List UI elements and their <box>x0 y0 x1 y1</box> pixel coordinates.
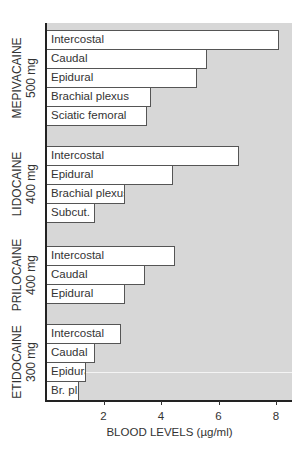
bar-prilocaine-caudal: Caudal <box>46 265 145 285</box>
x-tick <box>104 401 105 405</box>
bar-mepivacaine-intercostal: Intercostal <box>46 30 279 50</box>
bar-etidocaine-epidural: Epidural <box>46 362 86 382</box>
bar-mepivacaine-caudal: Caudal <box>46 49 207 69</box>
x-axis-title: BLOOD LEVELS (µg/ml) <box>47 426 292 438</box>
drug-name: MEPIVACAINE <box>10 37 24 118</box>
group-label-prilocaine: PRILOCAINE400 mg <box>10 238 38 311</box>
bar-lidocaine-intercostal: Intercostal <box>46 146 239 166</box>
bar-mepivacaine-sciatic-femoral: Sciatic femoral <box>46 106 147 126</box>
scan-artifact-line <box>86 372 292 373</box>
x-tick-label: 6 <box>209 410 229 422</box>
bar-lidocaine-subcut: Subcut. <box>46 203 95 223</box>
x-axis <box>45 400 292 402</box>
group-label-mepivacaine: MEPIVACAINE500 mg <box>10 37 38 118</box>
drug-dose: 500 mg <box>24 37 38 118</box>
bar-lidocaine-epidural: Epidural <box>46 165 173 185</box>
bar-lidocaine-brachial-plexus: Brachial plexus <box>46 184 125 204</box>
drug-name: PRILOCAINE <box>10 238 24 311</box>
x-tick-label: 8 <box>266 410 286 422</box>
bar-mepivacaine-epidural: Epidural <box>46 68 197 88</box>
x-tick-label: 2 <box>94 410 114 422</box>
bar-etidocaine-intercostal: Intercostal <box>46 324 121 344</box>
blood-levels-chart: IntercostalCaudalEpiduralBrachial plexus… <box>0 0 306 453</box>
bar-prilocaine-epidural: Epidural <box>46 284 125 304</box>
bar-etidocaine-caudal: Caudal <box>46 343 95 363</box>
group-label-lidocaine: LIDOCAINE400 mg <box>10 152 38 217</box>
drug-name: ETIDOCAINE <box>10 325 24 398</box>
y-axis <box>45 23 47 402</box>
drug-dose: 300 mg <box>24 325 38 398</box>
bar-prilocaine-intercostal: Intercostal <box>46 246 175 266</box>
bar-etidocaine-br-pl: Br. pl. <box>46 381 79 401</box>
x-tick <box>219 401 220 405</box>
x-tick-label: 4 <box>151 410 171 422</box>
x-tick <box>161 401 162 405</box>
x-tick <box>276 401 277 405</box>
bar-mepivacaine-brachial-plexus: Brachial plexus <box>46 87 151 107</box>
drug-name: LIDOCAINE <box>10 152 24 217</box>
drug-dose: 400 mg <box>24 238 38 311</box>
group-label-etidocaine: ETIDOCAINE300 mg <box>10 325 38 398</box>
drug-dose: 400 mg <box>24 152 38 217</box>
